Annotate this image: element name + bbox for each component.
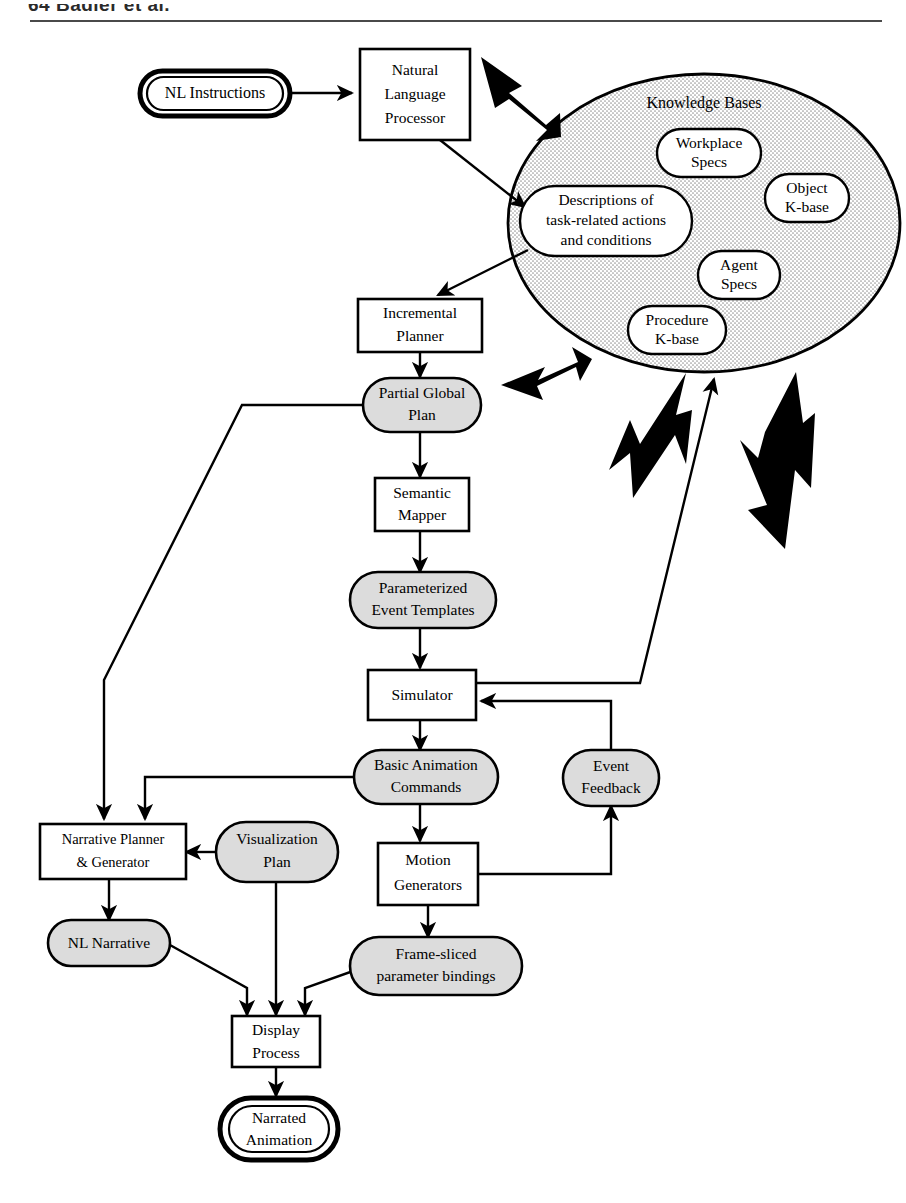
frame-sliced-label-line1: Frame-sliced [396,945,477,962]
descriptions-node[interactable]: Descriptions of task-related actions and… [520,186,692,256]
edge-event-feedback-to-simulator [481,701,611,750]
natural-language-processor-node[interactable]: Natural Language Processor [360,49,470,140]
basic-animation-commands-label-line1: Basic Animation [374,756,478,773]
frame-sliced-node[interactable]: Frame-sliced parameter bindings [350,937,522,995]
incremental-planner-node[interactable]: Incremental Planner [358,299,482,352]
object-kbase-node[interactable]: Object K-base [765,174,849,222]
semantic-mapper-label-line2: Mapper [398,506,447,523]
basic-animation-commands-node[interactable]: Basic Animation Commands [354,750,498,804]
procedure-kbase-label-line1: Procedure [646,311,709,328]
edge-nl-narrative-to-display-process [170,945,247,1015]
visualization-plan-label-line1: Visualization [236,830,318,847]
motion-generators-label-line1: Motion [405,851,451,868]
descriptions-label-line2: task-related actions [546,211,666,228]
nl-instructions-label: NL Instructions [165,84,265,101]
block-arrow-knowledge-to-pgp [501,347,592,400]
knowledge-bases-title: Knowledge Bases [646,94,761,112]
edge-descriptions-to-incremental-planner [438,250,528,295]
event-templates-label-line1: Parameterized [379,579,468,596]
display-process-label-line2: Process [252,1044,299,1061]
frame-sliced-label-line2: parameter bindings [376,967,495,984]
procedure-kbase-label-line2: K-base [655,330,699,347]
narrative-planner-node[interactable]: Narrative Planner & Generator [40,824,186,879]
edge-basic-animation-commands-to-narrative-planner [145,777,358,819]
nl-narrative-node[interactable]: NL Narrative [48,920,170,966]
semantic-mapper-node[interactable]: Semantic Mapper [375,478,469,531]
partial-global-plan-node[interactable]: Partial Global Plan [363,378,481,432]
incremental-planner-label-line2: Planner [396,327,444,344]
simulator-label: Simulator [391,686,453,703]
partial-global-plan-label-line1: Partial Global [379,384,466,401]
narrated-animation-node[interactable]: Narrated Animation [220,1098,338,1160]
nl-narrative-label: NL Narrative [68,934,151,951]
event-feedback-node[interactable]: Event Feedback [563,750,659,806]
event-feedback-label-line2: Feedback [581,779,641,796]
motion-generators-label-line2: Generators [394,876,462,893]
event-templates-node[interactable]: Parameterized Event Templates [350,572,496,628]
basic-animation-commands-label-line2: Commands [391,778,462,795]
nlp-label-line3: Processor [385,109,446,126]
semantic-mapper-label-line1: Semantic [393,484,451,501]
object-kbase-label-line2: K-base [785,198,829,215]
object-kbase-label-line1: Object [786,179,828,196]
workplace-specs-label-line2: Specs [691,153,727,170]
procedure-kbase-node[interactable]: Procedure K-base [628,306,726,354]
descriptions-label-line3: and conditions [561,231,652,248]
narrated-animation-label-line2: Animation [246,1131,313,1148]
edge-nlp-to-descriptions [440,140,525,207]
edge-pgp-to-narrative-planner [104,405,363,819]
partial-global-plan-label-line2: Plan [408,406,436,423]
simulator-node[interactable]: Simulator [368,670,476,720]
narrative-planner-label-line2: & Generator [77,854,150,870]
block-arrow-knowledge-to-semantic-mapper [609,373,692,498]
agent-specs-label-line2: Specs [721,275,757,292]
block-arrow-knowledge-to-motion-generators [740,372,815,549]
nlp-label-line1: Natural [392,61,438,78]
nlp-label-line2: Language [384,85,445,102]
workplace-specs-label-line1: Workplace [676,134,743,151]
visualization-plan-label-line2: Plan [263,853,291,870]
agent-specs-label-line1: Agent [720,256,759,273]
block-arrow-knowledge-to-nlp [481,57,561,141]
event-feedback-label-line1: Event [593,757,630,774]
edge-motion-generators-to-event-feedback [479,806,611,874]
nl-instructions-node[interactable]: NL Instructions [140,71,290,116]
incremental-planner-label-line1: Incremental [383,304,457,321]
display-process-label-line1: Display [252,1021,300,1038]
page-canvas: 64 Badler et al. Knowledge Bases [0,0,906,1203]
workplace-specs-node[interactable]: Workplace Specs [657,129,761,177]
descriptions-label-line1: Descriptions of [558,191,654,208]
narrative-planner-label-line1: Narrative Planner [62,831,165,847]
agent-specs-node[interactable]: Agent Specs [698,251,780,299]
event-templates-label-line2: Event Templates [371,601,474,618]
visualization-plan-node[interactable]: Visualization Plan [216,822,338,882]
motion-generators-node[interactable]: Motion Generators [378,843,478,905]
system-architecture-diagram: Knowledge Bases [0,0,906,1203]
display-process-node[interactable]: Display Process [232,1016,320,1067]
narrated-animation-label-line1: Narrated [252,1109,306,1126]
